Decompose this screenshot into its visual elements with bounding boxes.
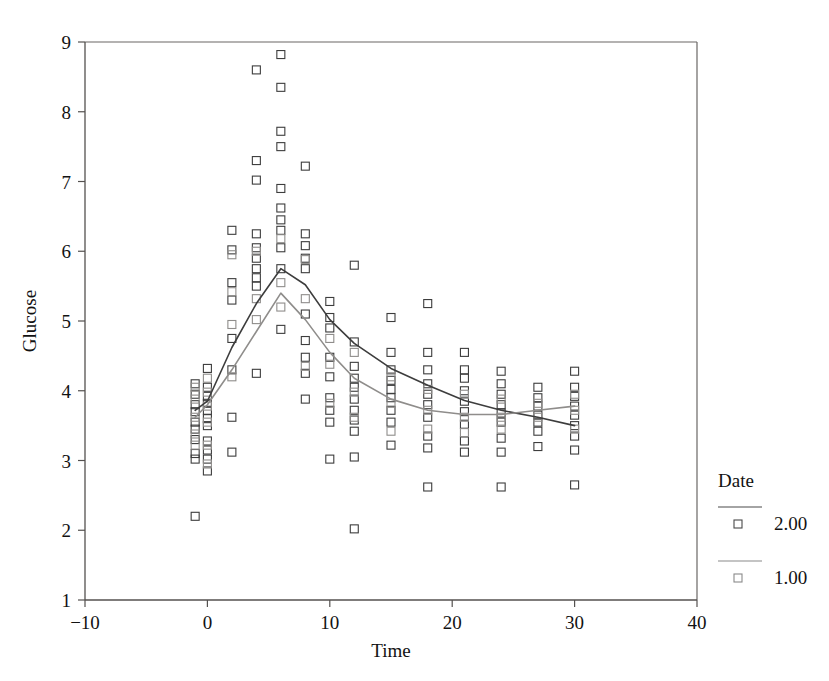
x-tick-label: 0 (203, 612, 213, 633)
data-point-marker (460, 374, 468, 382)
data-point-marker (203, 364, 211, 372)
data-point-marker (203, 455, 211, 463)
data-point-marker (424, 401, 432, 409)
data-point-marker (424, 444, 432, 452)
data-point-marker (301, 162, 309, 170)
data-point-marker (191, 395, 199, 403)
y-tick-label: 7 (62, 172, 72, 193)
data-points-layer (191, 51, 578, 533)
data-point-marker (301, 353, 309, 361)
legend-marker-sample[interactable] (734, 520, 742, 528)
data-point-marker (387, 348, 395, 356)
y-tick-label: 3 (62, 451, 72, 472)
data-point-marker (534, 383, 542, 391)
legend-marker-sample[interactable] (734, 574, 742, 582)
data-point-marker (326, 418, 334, 426)
data-point-marker (350, 383, 358, 391)
data-point-marker (424, 366, 432, 374)
data-point-marker (228, 226, 236, 234)
data-point-marker (191, 450, 199, 458)
y-tick-label: 2 (62, 520, 72, 541)
y-tick-label: 8 (62, 102, 72, 123)
data-point-marker (252, 230, 260, 238)
legend-title: Date (718, 470, 754, 491)
data-point-marker (301, 295, 309, 303)
data-point-marker (191, 455, 199, 463)
data-point-marker (252, 265, 260, 273)
data-point-marker (326, 394, 334, 402)
data-point-marker (534, 402, 542, 410)
data-point-marker (228, 279, 236, 287)
data-point-marker (252, 369, 260, 377)
data-point-marker (460, 348, 468, 356)
series-fit-line (195, 269, 574, 426)
data-point-marker (228, 320, 236, 328)
y-tick-label: 6 (62, 241, 72, 262)
data-point-marker (191, 512, 199, 520)
data-point-marker (277, 83, 285, 91)
x-tick-label: −10 (70, 612, 100, 633)
y-axis-ticks: 123456789 (62, 32, 86, 611)
x-tick-label: 30 (565, 612, 584, 633)
data-point-marker (326, 334, 334, 342)
data-point-marker (277, 216, 285, 224)
data-point-marker (252, 316, 260, 324)
data-point-marker (228, 296, 236, 304)
data-point-marker (571, 392, 579, 400)
data-point-marker (497, 401, 505, 409)
data-point-marker (277, 279, 285, 287)
data-point-marker (460, 437, 468, 445)
y-axis-title: Glucose (19, 290, 40, 352)
data-point-marker (228, 413, 236, 421)
data-point-marker (191, 430, 199, 438)
data-point-marker (387, 441, 395, 449)
data-point-marker (277, 204, 285, 212)
data-point-marker (252, 176, 260, 184)
data-point-marker (387, 314, 395, 322)
data-point-marker (277, 325, 285, 333)
data-point-marker (301, 242, 309, 250)
data-point-marker (203, 374, 211, 382)
data-point-marker (326, 455, 334, 463)
data-point-marker (326, 297, 334, 305)
data-point-marker (301, 337, 309, 345)
data-point-marker (277, 303, 285, 311)
data-point-marker (228, 251, 236, 259)
data-point-marker (497, 483, 505, 491)
data-point-marker (191, 436, 199, 444)
data-point-marker (534, 394, 542, 402)
legend: Date2.001.00 (718, 470, 807, 588)
data-point-marker (350, 261, 358, 269)
data-point-marker (497, 367, 505, 375)
data-point-marker (301, 230, 309, 238)
data-point-marker (571, 367, 579, 375)
plot-svg: 123456789 −10010203040 Glucose Time Date… (0, 0, 829, 681)
data-point-marker (387, 418, 395, 426)
data-point-marker (424, 483, 432, 491)
data-point-marker (277, 184, 285, 192)
data-point-marker (387, 385, 395, 393)
data-point-marker (277, 226, 285, 234)
legend-entry-label[interactable]: 1.00 (774, 567, 807, 588)
data-point-marker (191, 441, 199, 449)
data-point-marker (301, 265, 309, 273)
data-point-marker (203, 383, 211, 391)
data-point-marker (571, 411, 579, 419)
data-point-marker (350, 427, 358, 435)
x-tick-label: 10 (320, 612, 339, 633)
data-point-marker (277, 127, 285, 135)
data-point-marker (252, 157, 260, 165)
data-point-marker (350, 525, 358, 533)
data-point-marker (326, 324, 334, 332)
data-point-marker (424, 348, 432, 356)
data-point-marker (326, 373, 334, 381)
data-point-marker (497, 434, 505, 442)
data-point-marker (350, 362, 358, 370)
data-point-marker (497, 448, 505, 456)
data-point-marker (534, 399, 542, 407)
y-tick-label: 9 (62, 32, 72, 53)
data-point-marker (497, 395, 505, 403)
y-tick-label: 5 (62, 311, 72, 332)
y-tick-label: 1 (62, 590, 72, 611)
legend-entry-label[interactable]: 2.00 (774, 513, 807, 534)
